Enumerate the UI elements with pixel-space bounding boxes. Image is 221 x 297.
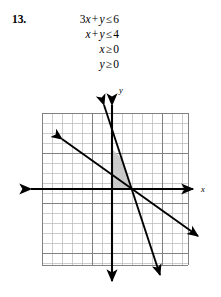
- inequality-2: x+y≤4: [33, 28, 119, 40]
- inequality-1-variable-x: x: [85, 13, 90, 25]
- inequality-1-constant: 6: [113, 13, 119, 25]
- inequality-3: x≥0: [33, 43, 119, 55]
- inequality-3-operator: ≥: [105, 43, 114, 55]
- inequality-4: y≥0: [33, 58, 119, 70]
- inequality-1-operator: ≤: [105, 13, 114, 25]
- inequality-4-constant: 0: [113, 58, 119, 70]
- worksheet-page: 13. 3x+y≤6 x+y≤4 x≥0 y≥0: [0, 0, 221, 297]
- problem-number: 13.: [12, 13, 26, 25]
- inequality-2-variable-y: y: [99, 28, 104, 40]
- coordinate-graph: x y: [0, 76, 221, 297]
- inequality-2-variable-x: x: [85, 28, 90, 40]
- line-x-plus-y-equals-4: [62, 139, 198, 236]
- graph-svg: x y: [0, 76, 221, 297]
- inequality-4-variable-y: y: [99, 58, 104, 70]
- y-axis-label: y: [118, 85, 123, 95]
- inequality-1: 3x+y≤6: [33, 13, 119, 25]
- problem-statement: 13. 3x+y≤6 x+y≤4 x≥0 y≥0: [0, 0, 221, 80]
- inequality-1-variable-y: y: [99, 13, 104, 25]
- inequality-3-constant: 0: [113, 43, 119, 55]
- inequality-4-operator: ≥: [105, 58, 114, 70]
- inequality-2-constant: 4: [113, 28, 119, 40]
- x-axis-label: x: [200, 184, 205, 194]
- inequality-3-variable-x: x: [99, 43, 104, 55]
- inequality-2-operator: ≤: [105, 28, 114, 40]
